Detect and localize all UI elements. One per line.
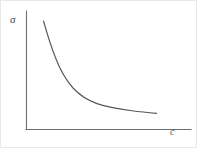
figure-container: σ c: [0, 0, 197, 148]
x-axis-label: c: [170, 127, 174, 137]
y-axis-label: σ: [10, 14, 15, 25]
plot-area: [1, 1, 197, 148]
sigma-decay-curve: [44, 21, 157, 113]
